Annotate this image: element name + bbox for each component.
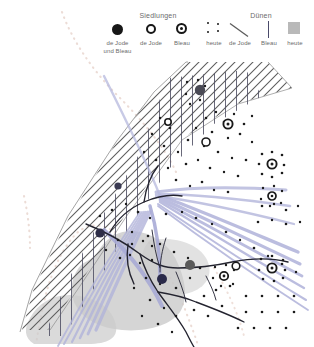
gray-square-icon — [288, 22, 300, 34]
dot-cluster-icon — [207, 22, 221, 34]
map-legend: Siedlungen de Jode und Bleau de Jode Ble… — [0, 0, 314, 58]
legend-dunes-title: Dünen — [238, 12, 284, 19]
legend-label-line2: und Bleau — [104, 48, 132, 54]
legend-dunes-label-2: heute — [277, 40, 313, 48]
legend-settlements-title: Siedlungen — [128, 12, 188, 19]
legend-label-line1: de Jode — [106, 40, 128, 46]
open-circle-icon — [146, 24, 156, 34]
map-figure: Siedlungen de Jode und Bleau de Jode Ble… — [0, 0, 314, 347]
filled-circle-icon — [112, 24, 123, 35]
diagonal-hatch-icon — [228, 22, 250, 38]
vertical-line-icon — [268, 21, 269, 38]
donut-circle-icon — [176, 23, 187, 34]
